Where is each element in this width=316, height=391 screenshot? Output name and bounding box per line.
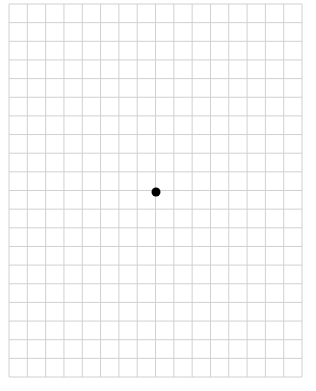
fixation-dot [152,188,161,197]
amsler-grid [0,0,316,391]
